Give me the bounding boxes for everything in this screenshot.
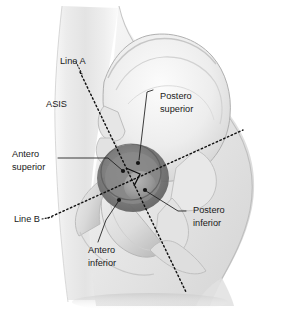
label-postero-superior-line2: superior [160, 104, 193, 114]
marker-postero-inferior [143, 188, 147, 192]
label-antero-inferior-line1: Antero [88, 245, 115, 255]
label-antero-superior-line2: superior [12, 162, 45, 172]
leader-line-b [42, 217, 52, 219]
femoral-head [124, 171, 156, 201]
label-postero-superior-line1: Postero [160, 91, 192, 101]
acetabulum-group [97, 144, 169, 212]
marker-postero-superior [136, 161, 140, 165]
hip-pelvis-illustration: Line A ASIS Postero superior Antero supe… [0, 0, 286, 313]
label-line-b: Line B [14, 214, 40, 224]
marker-antero-superior [121, 169, 125, 173]
marker-antero-inferior [117, 198, 121, 202]
label-antero-inferior-line2: inferior [88, 258, 116, 268]
label-postero-inferior-line2: inferior [193, 218, 221, 228]
label-line-a: Line A [60, 56, 86, 66]
label-antero-superior-line1: Antero [12, 149, 39, 159]
ground-shadow [72, 293, 228, 311]
anatomical-figure: Line A ASIS Postero superior Antero supe… [0, 0, 286, 313]
label-postero-inferior-line1: Postero [193, 205, 225, 215]
label-asis: ASIS [46, 99, 67, 109]
